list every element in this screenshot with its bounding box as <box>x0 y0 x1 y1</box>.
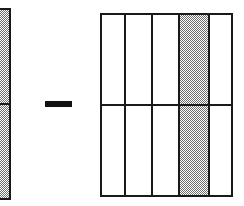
figure-canvas: − <box>0 0 244 206</box>
grid-horizontal-divider-1 <box>102 104 231 106</box>
minuend-bar-row-divider <box>0 103 11 105</box>
subtrahend-grid <box>100 13 233 197</box>
minuend-bar <box>0 8 11 200</box>
minus-sign-icon: − <box>45 101 72 107</box>
